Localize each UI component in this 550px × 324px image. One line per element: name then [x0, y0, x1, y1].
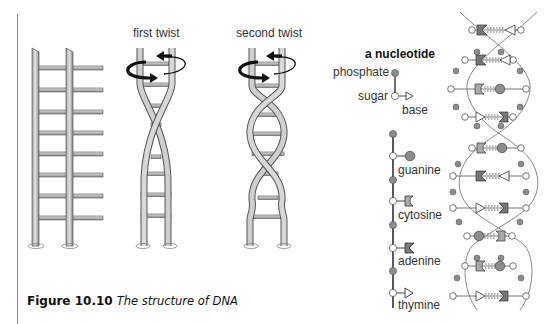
- second-twist-label: second twist: [236, 26, 302, 40]
- sugar-label: sugar: [358, 89, 388, 103]
- second-twist-ladder: [240, 48, 296, 249]
- thymine-label: thymine: [398, 298, 440, 312]
- first-twist-ladder: [128, 48, 186, 249]
- figure-number: Figure 10.10: [27, 294, 113, 308]
- cytosine-label: cytosine: [398, 208, 442, 222]
- double-helix: [448, 12, 538, 310]
- base-label: base: [402, 103, 428, 117]
- figure-caption-text: The structure of DNA: [117, 294, 238, 308]
- nucleotide-title: a nucleotide: [365, 47, 435, 61]
- adenine-label: adenine: [398, 254, 441, 268]
- nucleotide-legend: [391, 69, 413, 100]
- guanine-label: guanine: [398, 163, 441, 177]
- dna-figure: [0, 0, 550, 324]
- straight-ladder: [28, 48, 105, 249]
- figure-caption: Figure 10.10The structure of DNA: [27, 294, 238, 308]
- first-twist-label: first twist: [133, 26, 180, 40]
- phosphate-label: phosphate: [333, 65, 389, 79]
